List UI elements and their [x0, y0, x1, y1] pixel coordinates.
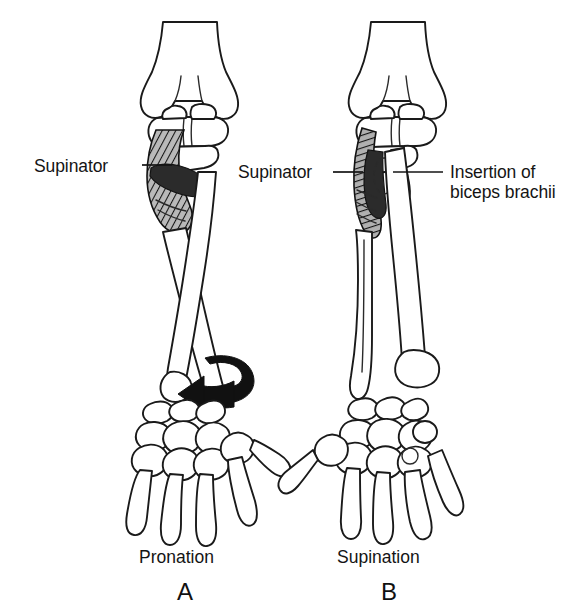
- label-supinator-b: Supinator: [238, 162, 312, 182]
- humerus-bone-a: [141, 22, 238, 119]
- radius-bone-b: [385, 148, 439, 387]
- label-supinator-a: Supinator: [34, 156, 108, 176]
- carpal-bones-b: [315, 398, 437, 479]
- panel-a-pronation: [126, 22, 290, 546]
- humerus-bone-b: [349, 22, 446, 119]
- caption-panel-b: Supination: [337, 547, 420, 567]
- caption-panel-a: Pronation: [139, 547, 214, 567]
- panel-letter-a: A: [177, 578, 193, 605]
- figure-container: Supinator Supinator Insertion of biceps …: [0, 0, 573, 612]
- radius-head-b: [399, 104, 425, 119]
- panel-letter-b: B: [381, 578, 397, 605]
- panel-b-supination: [278, 22, 463, 544]
- label-biceps-insertion-line1: Insertion of: [450, 162, 536, 182]
- label-biceps-insertion-line2: biceps brachii: [450, 182, 556, 202]
- ulna-bone-b: [350, 230, 372, 399]
- radius-head-a: [191, 104, 217, 119]
- anatomy-figure: Supinator Supinator Insertion of biceps …: [0, 0, 573, 612]
